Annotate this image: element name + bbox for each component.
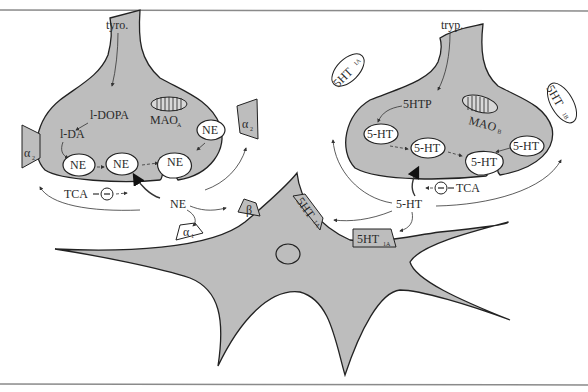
vesicle-ne-4-label: NE — [202, 123, 218, 137]
vesicle-ne-3-docked: NE — [158, 153, 192, 178]
top-rule — [0, 10, 588, 11]
vesicle-ne-2: NE — [106, 153, 138, 175]
5ht-released-label: 5-HT — [396, 197, 423, 211]
mitochondrion-mao-a — [151, 97, 187, 111]
vesicle-5ht-2-label: 5-HT — [414, 141, 441, 155]
alpha1-label: α — [183, 225, 190, 239]
ne-released-label: NE — [170, 197, 186, 211]
vesicle-ne-2-label: NE — [113, 157, 129, 171]
vesicle-ne-3-label: NE — [167, 155, 183, 169]
tyrosine-label: tyro. — [106, 18, 128, 32]
5ht1a-lower-sub: 1A — [383, 241, 391, 247]
tryptophan-label: tryp. — [441, 18, 463, 32]
alpha2-right-sub: 2 — [250, 126, 253, 132]
vesicle-ne-1: NE — [63, 154, 95, 176]
vesicle-5ht-2: 5-HT — [411, 138, 445, 158]
vesicle-ne-4: NE — [197, 120, 225, 140]
alpha2-left-label: α — [24, 146, 31, 160]
mao-a-sub: A — [177, 122, 182, 128]
receptor-beta: β — [238, 199, 260, 217]
5ht1a-lower-label: 5HT — [357, 232, 380, 246]
autoreceptor-5ht1a-left: 5HT 1A — [326, 48, 370, 92]
serotonergic-terminal: 5HT 1A 5HT 1B tryp. 5HTP MAO B 5-HT 5-HT — [326, 18, 582, 179]
alpha1-sub: 1 — [191, 233, 194, 239]
tca-left-label: TCA — [64, 187, 88, 201]
vesicle-5ht-3-label: 5-HT — [471, 155, 498, 169]
vesicle-5ht-4-label: 5-HT — [513, 139, 540, 153]
beta-label: β — [246, 203, 252, 217]
l-dopa-label: l-DOPA — [90, 108, 129, 122]
5htp-label: 5HTP — [403, 97, 432, 111]
inhibition-icon-right — [435, 182, 447, 194]
mao-a-label: MAO — [150, 113, 178, 127]
alpha2-right-label: α — [242, 117, 249, 131]
vesicle-5ht-4: 5-HT — [510, 136, 544, 156]
vesicle-ne-1-label: NE — [70, 158, 86, 172]
noradrenergic-terminal: α 2 α 2 tyro. l-DOPA l-DA MAO A NE NE — [22, 10, 258, 182]
postsynaptic-neuron — [55, 173, 510, 375]
monoamine-synapse-diagram: α 1 β 5HT 1A 5HT 1A α 2 α 2 tyro. l-DOPA… — [0, 0, 588, 392]
receptor-5ht1a-lower: 5HT 1A — [353, 229, 396, 247]
tca-right-label: TCA — [456, 181, 480, 195]
bottom-rule — [0, 384, 588, 385]
alpha2-left-sub: 2 — [32, 155, 35, 161]
vesicle-5ht-1-label: 5-HT — [367, 127, 394, 141]
receptor-alpha1: α 1 — [176, 223, 203, 240]
inhibition-icon-left — [101, 188, 113, 200]
vesicle-5ht-1: 5-HT — [364, 124, 398, 144]
l-da-label: l-DA — [60, 127, 85, 141]
